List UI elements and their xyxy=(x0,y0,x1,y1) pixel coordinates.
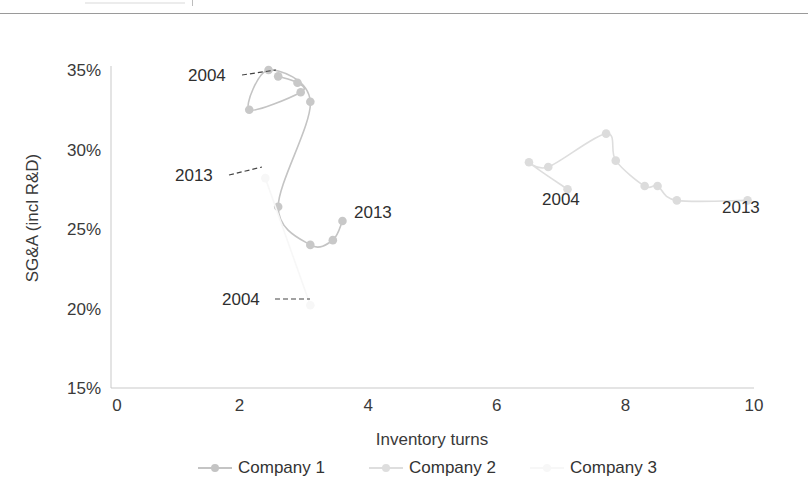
x-tick-label: 10 xyxy=(745,396,764,415)
data-point[interactable]: Company 1 2008: 2.45, 35% xyxy=(264,66,273,75)
legend: Company 1 Company 2 Company 3 xyxy=(0,455,808,481)
data-point[interactable]: Company 1 2006: 2.95, 33.6% xyxy=(296,88,305,97)
series-company-3: Company 3 2004: 3.1, 20.2%Company 3 2013… xyxy=(261,174,315,310)
legend-label: Company 2 xyxy=(409,458,496,478)
legend-item-company-2[interactable]: Company 2 xyxy=(369,455,496,481)
company3-end-label: 2013 xyxy=(175,166,213,185)
legend-item-company-1[interactable]: Company 1 xyxy=(198,455,325,481)
legend-marker-company-2-icon xyxy=(369,461,403,475)
data-point[interactable]: Company 2 2005: 6.5, 29.2% xyxy=(525,158,534,167)
y-tick-labels: 15%20%25%30%35% xyxy=(67,61,101,398)
company2-end-label: 2013 xyxy=(722,198,760,217)
data-point[interactable]: Company 1 2011: 3.1, 24% xyxy=(306,241,315,250)
data-point[interactable]: Company 2 2009: 8.3, 27.7% xyxy=(640,182,649,191)
company3-start-label: 2004 xyxy=(222,290,260,309)
x-tick-label: 4 xyxy=(363,396,372,415)
data-point[interactable]: Company 1 2012: 3.45, 24.3% xyxy=(329,236,338,245)
data-point[interactable]: Company 3 2013: 2.4, 28.2% xyxy=(261,174,270,183)
company3-end-leader xyxy=(229,167,262,175)
legend-dot xyxy=(543,464,551,472)
y-tick-label: 25% xyxy=(67,220,101,239)
data-point[interactable]: Company 3 2004: 3.1, 20.2% xyxy=(306,301,315,310)
company2-start-label: 2004 xyxy=(542,190,580,209)
legend-dot xyxy=(211,464,219,472)
data-point[interactable]: Company 1 2013: 3.6, 25.5% xyxy=(338,217,347,226)
x-tick-label: 2 xyxy=(235,396,244,415)
data-point[interactable]: Company 2 2011: 8.8, 26.8% xyxy=(673,196,682,205)
data-point[interactable]: Company 1 2004: 2.6, 34.6% xyxy=(274,72,283,81)
legend-label: Company 1 xyxy=(238,458,325,478)
axes xyxy=(111,66,754,388)
legend-item-company-3[interactable]: Company 3 xyxy=(530,455,657,481)
company1-start-label: 2004 xyxy=(188,66,226,85)
data-point[interactable]: Company 1 2005: 2.9, 34.2% xyxy=(293,78,302,87)
x-axis-title: Inventory turns xyxy=(376,430,488,449)
scatter-line-chart: 15%20%25%30%35% 0246810 SG&A (incl R&D) … xyxy=(0,0,808,450)
company1-end-label: 2013 xyxy=(354,203,392,222)
y-tick-label: 30% xyxy=(67,141,101,160)
x-tick-label: 6 xyxy=(492,396,501,415)
data-point[interactable]: Company 2 2007: 7.7, 31% xyxy=(602,129,611,138)
data-point[interactable]: Company 2 2006: 6.8, 28.9% xyxy=(544,163,553,172)
x-tick-labels: 0246810 xyxy=(112,396,763,415)
y-axis-title: SG&A (incl R&D) xyxy=(23,154,42,282)
series-layer: Company 1 2004: 2.6, 34.6%Company 1 2005… xyxy=(245,66,752,310)
data-point[interactable]: Company 2 2010: 8.5, 27.7% xyxy=(653,182,662,191)
y-tick-label: 35% xyxy=(67,61,101,80)
legend-dot xyxy=(382,464,390,472)
data-point[interactable]: Company 1 2009: 3.1, 33% xyxy=(306,98,315,107)
y-tick-label: 15% xyxy=(67,379,101,398)
legend-label: Company 3 xyxy=(570,458,657,478)
y-tick-label: 20% xyxy=(67,300,101,319)
data-point[interactable]: Company 2 2008: 7.85, 29.3% xyxy=(611,156,620,165)
legend-marker-company-1-icon xyxy=(198,461,232,475)
x-tick-label: 8 xyxy=(621,396,630,415)
data-point[interactable]: Company 1 2007: 2.15, 32.5% xyxy=(245,105,254,114)
series-line xyxy=(248,70,342,247)
x-tick-label: 0 xyxy=(112,396,121,415)
legend-marker-company-3-icon xyxy=(530,461,564,475)
series-company-1: Company 1 2004: 2.6, 34.6%Company 1 2005… xyxy=(245,66,347,250)
